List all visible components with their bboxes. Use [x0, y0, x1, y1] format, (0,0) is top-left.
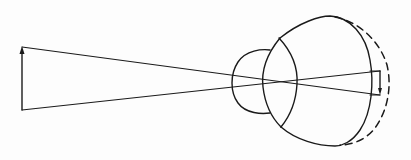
- diagram-svg: [0, 0, 411, 160]
- cornea: [232, 50, 270, 114]
- eye-diagram: Eye optics: image formation with elongat…: [0, 0, 411, 160]
- object-arrow: [20, 46, 25, 110]
- lower-ray: [22, 71, 380, 110]
- upper-ray: [22, 47, 380, 95]
- arrowhead-down-icon: [378, 88, 382, 95]
- light-rays: [22, 47, 380, 110]
- eyeball: [280, 16, 372, 146]
